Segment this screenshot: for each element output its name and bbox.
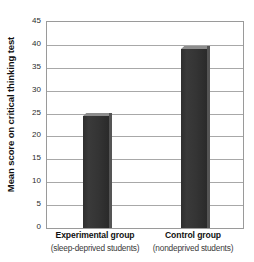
y-axis-tick-label: 10 [32, 177, 41, 185]
bar-chart-figure: Mean score on critical thinking test 454… [0, 0, 254, 262]
bar [181, 49, 207, 228]
y-axis-tick-labels: 454035302520151050 [22, 0, 44, 232]
bar-side-face [109, 113, 112, 228]
x-axis-group-label: Control group(nondeprived students) [144, 229, 242, 254]
y-axis-title: Mean score on critical thinking test [0, 0, 22, 228]
x-axis-group-name: Control group [144, 229, 242, 242]
x-axis-group-sublabel: (nondeprived students) [144, 242, 242, 254]
y-axis-tick-label: 25 [32, 109, 41, 117]
y-axis-tick-label: 15 [32, 154, 41, 162]
bar-side-face [207, 46, 210, 228]
bar-top-face [83, 113, 112, 116]
y-axis-tick-label: 20 [32, 131, 41, 139]
y-axis-title-text: Mean score on critical thinking test [6, 36, 17, 191]
plot-area [46, 21, 244, 229]
y-axis-tick-label: 0 [37, 223, 41, 231]
y-axis-tick-label: 5 [37, 200, 41, 208]
bar-face [181, 49, 207, 228]
y-axis-tick-label: 45 [32, 17, 41, 25]
x-axis-group-name: Experimental group [46, 229, 144, 242]
x-axis-group-label: Experimental group(sleep-deprived studen… [46, 229, 144, 254]
bar [83, 116, 109, 228]
bars-layer [47, 22, 243, 228]
y-axis-tick-label: 30 [32, 86, 41, 94]
y-axis-tick-label: 40 [32, 40, 41, 48]
y-axis-tick-label: 35 [32, 63, 41, 71]
x-axis-group-sublabel: (sleep-deprived students) [46, 242, 144, 254]
bar-face [83, 116, 109, 228]
x-axis-tick-labels: Experimental group(sleep-deprived studen… [46, 229, 242, 262]
